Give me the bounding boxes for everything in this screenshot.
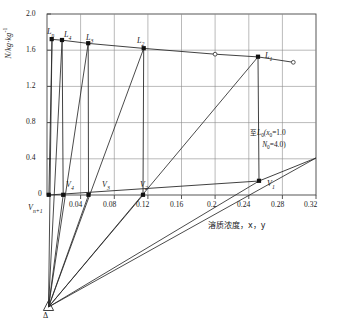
chart-figure: N/kg·kg-1 2.0 1.6 1.2 0.8 0.4 0 0.04 0.0… bbox=[0, 0, 338, 328]
point-label-L3: L3 bbox=[86, 33, 93, 44]
y-tick-label-1.2: 1.2 bbox=[26, 81, 36, 90]
x-tick-label-0.16: 0.16 bbox=[170, 200, 183, 209]
y-tick-label-0: 0 bbox=[38, 189, 42, 198]
x-tick-label-0.04: 0.04 bbox=[69, 200, 82, 209]
y-tick-label-2.0: 2.0 bbox=[26, 9, 36, 18]
point-label-Vn1: Vn+1 bbox=[28, 203, 43, 214]
chart-canvas bbox=[0, 0, 338, 328]
annotation-line-2: N0=4.0) bbox=[257, 140, 286, 152]
x-tick-label-0.24: 0.24 bbox=[237, 200, 250, 209]
annotation-cn: 至 bbox=[250, 129, 257, 138]
point-label-delta: Δ bbox=[43, 311, 48, 320]
y-axis-title: N/kg·kg-1 bbox=[2, 0, 13, 88]
x-tick-marks bbox=[81, 195, 316, 199]
point-label-Ln: Ln bbox=[47, 27, 54, 38]
annotation-line-1: L0(x0=1.0 bbox=[257, 128, 286, 137]
y-tick-label-0.4: 0.4 bbox=[26, 153, 36, 162]
x-tick-label-0.12: 0.12 bbox=[136, 200, 149, 209]
y-tick-label-0.8: 0.8 bbox=[26, 117, 36, 126]
point-label-V3: V3 bbox=[102, 180, 110, 191]
y-tick-label-1.6: 1.6 bbox=[26, 45, 36, 54]
x-tick-label-0.08: 0.08 bbox=[103, 200, 116, 209]
x-axis-title: 溶质浓度，x，y bbox=[208, 219, 265, 230]
point-label-V1: V1 bbox=[267, 179, 275, 190]
point-label-L4: L4 bbox=[64, 30, 71, 41]
point-label-L1: L1 bbox=[265, 51, 272, 62]
x-tick-label-0.32: 0.32 bbox=[304, 200, 317, 209]
point-label-L2: L2 bbox=[137, 36, 144, 47]
point-label-V4: V4 bbox=[66, 180, 74, 191]
x-tick-label-0.28: 0.28 bbox=[271, 200, 284, 209]
x-tick-label-0.2: 0.2 bbox=[207, 200, 217, 209]
point-label-V2: V2 bbox=[140, 180, 148, 191]
pole-annotation: 至 L0(x0=1.0 N0=4.0) bbox=[250, 128, 286, 153]
